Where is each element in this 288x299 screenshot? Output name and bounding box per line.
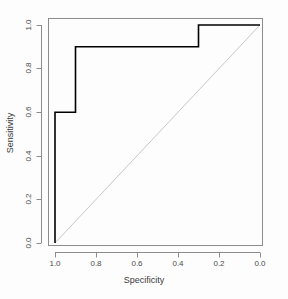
roc-chart-canvas (0, 0, 288, 299)
ytick-label-3: 0.6 (24, 106, 33, 117)
xtick-label-3: 0.4 (172, 259, 183, 268)
xtick-label-2: 0.6 (131, 259, 142, 268)
ytick-label-1: 0.2 (24, 193, 33, 204)
x-axis (55, 253, 261, 258)
x-axis-title: Specificity (124, 275, 165, 285)
ytick-label-0: 0.0 (24, 237, 33, 248)
plot-box (49, 19, 263, 246)
xtick-label-1: 0.8 (90, 259, 101, 268)
roc-plot: 1.0 0.8 0.6 0.4 0.2 0.0 0.0 0.2 0.4 0.6 … (0, 0, 288, 299)
ytick-label-2: 0.4 (24, 150, 33, 161)
y-axis-title: Sensitivity (5, 113, 15, 154)
chance-diagonal-line (55, 25, 260, 243)
ytick-label-4: 0.8 (24, 62, 33, 73)
xtick-label-5: 0.0 (254, 259, 265, 268)
ytick-label-5: 1.0 (24, 19, 33, 30)
xtick-label-4: 0.2 (213, 259, 224, 268)
y-axis (37, 25, 42, 244)
xtick-label-0: 1.0 (49, 259, 60, 268)
